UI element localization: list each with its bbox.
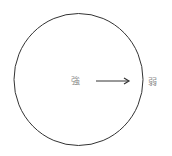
diagram-canvas xyxy=(0,0,172,156)
center-label-strong: 強 xyxy=(71,76,80,86)
outer-label-weak: 弱 xyxy=(148,77,157,87)
